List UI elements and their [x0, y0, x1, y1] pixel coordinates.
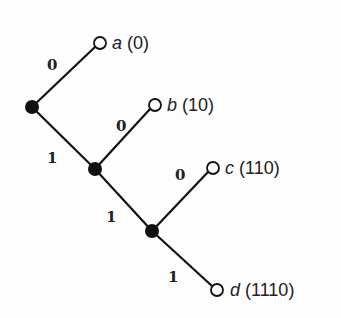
leaf-node-c: [207, 162, 219, 174]
leaf-node-b: [149, 99, 161, 111]
leaf-code-a: (0): [127, 33, 149, 53]
edge-label-root-a: 0: [47, 56, 57, 74]
leaf-symbol-d: d: [230, 280, 241, 300]
leaf-node-d: [211, 284, 223, 296]
leaf-label-c: c(110): [225, 158, 280, 178]
internal-node-2: [145, 224, 159, 238]
edge-root-to-a: [32, 47, 95, 107]
leaf-code-c: (110): [239, 158, 280, 178]
internal-node-1: [88, 162, 102, 176]
edge-n2-to-d: [152, 231, 212, 286]
internal-node-root: [25, 100, 39, 114]
leaf-code-d: (1110): [245, 280, 294, 300]
leaf-label-b: b(10): [167, 95, 214, 115]
leaf-node-a: [94, 37, 106, 49]
leaf-label-a: a(0): [112, 33, 149, 53]
tree-canvas: 0 1 0 1 0 1 a(0) b(10) c(110) d(1110): [0, 0, 341, 318]
edge-n1-to-n2: [95, 169, 152, 231]
leaf-code-b: (10): [182, 95, 214, 115]
leaf-symbol-b: b: [167, 95, 177, 115]
edge-label-n1-n2: 1: [106, 208, 116, 226]
code-tree-diagram: 0 1 0 1 0 1 a(0) b(10) c(110) d(1110): [0, 0, 341, 318]
edge-label-n2-c: 0: [175, 166, 185, 184]
edge-label-n2-d: 1: [168, 268, 178, 286]
edge-label-n1-b: 0: [116, 117, 126, 135]
leaf-label-d: d(1110): [230, 280, 294, 300]
leaf-symbol-a: a: [112, 33, 122, 53]
edge-root-to-n1: [32, 107, 95, 169]
leaf-symbol-c: c: [225, 158, 234, 178]
edge-label-root-n1: 1: [47, 149, 57, 167]
